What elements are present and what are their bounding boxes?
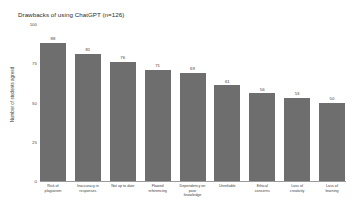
bar-rect[interactable] — [284, 98, 310, 181]
bar-item[interactable]: 50 — [319, 24, 345, 181]
y-tick-label: 25 — [32, 139, 40, 144]
y-tick-label: 100 — [30, 22, 40, 27]
bar-value-label: 69 — [190, 66, 195, 71]
bar-rect[interactable] — [180, 73, 206, 181]
x-tick-label: Ethical concerns — [249, 184, 275, 206]
x-tick-label: Dependency on poor knowledge — [180, 184, 206, 206]
chart-figure: Drawbacks of using ChatGPT (n=126) Numbe… — [0, 0, 359, 217]
bar-item[interactable]: 69 — [180, 24, 206, 181]
bar-item[interactable]: 76 — [110, 24, 136, 181]
bar-value-label: 88 — [51, 36, 56, 41]
y-tick-label: 75 — [32, 61, 40, 66]
bar-rect[interactable] — [319, 103, 345, 182]
x-tick-label: Loss of learning — [319, 184, 345, 206]
bar-value-label: 71 — [155, 63, 160, 68]
bar-rect[interactable] — [75, 54, 101, 181]
bar-item[interactable]: 71 — [145, 24, 171, 181]
chart-title: Drawbacks of using ChatGPT (n=126) — [18, 11, 124, 18]
x-tick-label: Unreliable — [214, 184, 240, 206]
y-axis-title: Number of students agreed — [10, 49, 15, 141]
bar-rect[interactable] — [249, 93, 275, 181]
bar-item[interactable]: 88 — [40, 24, 66, 181]
bar-value-label: 50 — [330, 96, 335, 101]
bar-rect[interactable] — [214, 85, 240, 181]
bar-item[interactable]: 56 — [249, 24, 275, 181]
bar-value-label: 76 — [120, 55, 125, 60]
bar-value-label: 81 — [85, 47, 90, 52]
plot-area: 0255075100 888176716961565350 — [40, 24, 345, 181]
bar-value-label: 56 — [260, 87, 265, 92]
x-tick-label: Flawed referencing — [145, 184, 171, 206]
x-tick-label: Inaccuracy in responses — [75, 184, 101, 206]
bar-value-label: 53 — [295, 91, 300, 96]
bar-rect[interactable] — [110, 62, 136, 181]
bar-value-label: 61 — [225, 79, 230, 84]
bar-rect[interactable] — [145, 70, 171, 181]
x-tick-label: Not up to date — [110, 184, 136, 206]
x-tick-label: Loss of creativity — [284, 184, 310, 206]
x-tick-label: Risk of plagiarism — [40, 184, 66, 206]
x-axis-labels: Risk of plagiarismInaccuracy in response… — [40, 184, 345, 206]
bar-item[interactable]: 53 — [284, 24, 310, 181]
y-tick-label: 50 — [32, 100, 40, 105]
bar-item[interactable]: 81 — [75, 24, 101, 181]
bar-rect[interactable] — [40, 43, 66, 181]
x-axis-line — [40, 181, 346, 182]
bar-item[interactable]: 61 — [214, 24, 240, 181]
bar-series: 888176716961565350 — [40, 24, 345, 181]
